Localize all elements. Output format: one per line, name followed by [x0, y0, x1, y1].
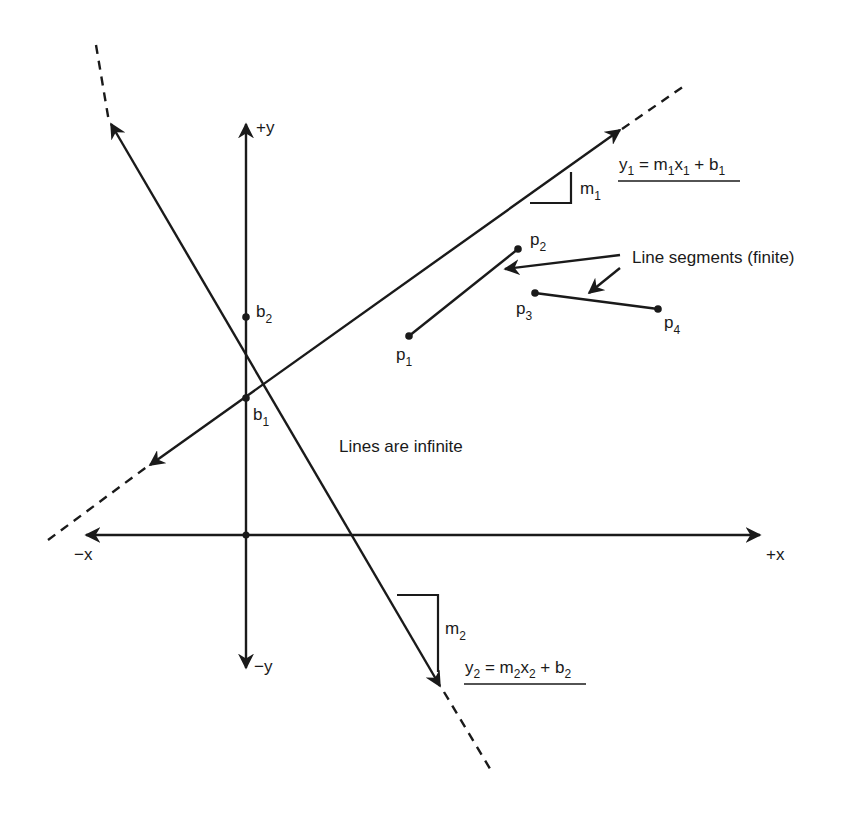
line2-dashed-lower	[444, 692, 492, 772]
line2	[111, 124, 440, 686]
line1-dashed-lower	[48, 466, 148, 540]
p4-label: p4	[664, 313, 680, 337]
point-p2	[514, 245, 522, 253]
origin-point	[243, 532, 250, 539]
b1-point	[242, 394, 250, 402]
callout-arrow-segment-1	[505, 255, 620, 269]
y-pos-label: +y	[256, 118, 275, 137]
line2-dashed-upper-visible	[96, 45, 109, 122]
m2-label: m2	[445, 619, 466, 643]
line1-dashed-upper	[622, 86, 684, 129]
lines-caption: Lines are infinite	[339, 437, 463, 456]
diagram-canvas: +y −y −x +x b2 b1 m1 m2 y1 = m1x1 + b1 y…	[0, 0, 844, 814]
callout-arrow-segment-2	[589, 268, 620, 293]
p2-label: p2	[530, 230, 546, 254]
equation-line1: y1 = m1x1 + b1	[619, 155, 725, 178]
equation-line2: y2 = m2x2 + b2	[465, 658, 571, 681]
b2-label: b2	[256, 302, 272, 326]
x-pos-label: +x	[766, 545, 785, 564]
line1	[150, 130, 620, 465]
point-p3	[531, 289, 539, 297]
b1-label: b1	[253, 405, 269, 429]
p3-label: p3	[516, 299, 532, 323]
b2-point	[242, 313, 250, 321]
slope-triangle-m2	[397, 595, 438, 672]
segments-caption: Line segments (finite)	[632, 248, 795, 267]
point-p4	[654, 305, 662, 313]
p1-label: p1	[396, 345, 412, 369]
slope-triangle-m1	[530, 172, 571, 203]
point-p1	[405, 332, 413, 340]
segment-p3-p4	[535, 293, 658, 309]
y-neg-label: −y	[254, 657, 273, 676]
m1-label: m1	[580, 179, 601, 203]
x-neg-label: −x	[74, 545, 93, 564]
segment-p1-p2	[409, 249, 518, 336]
